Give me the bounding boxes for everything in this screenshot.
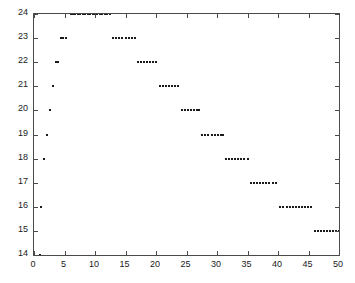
y-axis-tick-label: 16 [5, 200, 28, 211]
data-point [143, 61, 145, 63]
data-point [184, 109, 186, 111]
data-point [250, 182, 252, 184]
data-point [125, 37, 127, 39]
y-axis-tick [335, 62, 339, 63]
data-point [298, 206, 300, 208]
data-point [65, 37, 67, 39]
data-point [207, 134, 209, 136]
y-axis-tick-label: 14 [5, 248, 28, 259]
y-axis-tick [34, 183, 38, 184]
data-point [46, 134, 48, 136]
data-point [177, 85, 179, 87]
x-axis-tick-label: 10 [82, 259, 106, 270]
y-axis-tick-label: 21 [5, 79, 28, 90]
data-point [39, 254, 41, 255]
x-axis-tick-label: 35 [235, 259, 259, 270]
x-axis-tick-label: 15 [113, 259, 137, 270]
data-point [140, 61, 142, 63]
y-axis-tick [335, 86, 339, 87]
x-axis-tick [309, 14, 310, 18]
x-axis-tick [278, 251, 279, 255]
y-axis-tick [34, 231, 38, 232]
data-point [118, 37, 120, 39]
data-point [217, 134, 219, 136]
y-axis-tick-label: 22 [5, 55, 28, 66]
data-point [262, 182, 264, 184]
y-axis-tick [34, 207, 38, 208]
data-point [326, 230, 328, 232]
data-point [307, 206, 309, 208]
y-axis-tick [34, 86, 38, 87]
x-axis-tick-label: 50 [326, 259, 350, 270]
x-axis-tick-label: 25 [174, 259, 198, 270]
y-axis-tick [335, 110, 339, 111]
x-axis-tick-label: 30 [204, 259, 228, 270]
y-axis-tick [34, 135, 38, 136]
data-point [131, 37, 133, 39]
data-point [231, 158, 233, 160]
x-axis-tick [95, 251, 96, 255]
data-point [211, 134, 213, 136]
data-point [171, 85, 173, 87]
data-point [268, 182, 270, 184]
data-point [43, 158, 45, 160]
data-point [162, 85, 164, 87]
x-axis-tick [126, 14, 127, 18]
x-axis-tick [156, 14, 157, 18]
x-axis-tick [248, 251, 249, 255]
x-axis-tick-label: 20 [143, 259, 167, 270]
y-axis-tick-label: 15 [5, 224, 28, 235]
data-point [289, 206, 291, 208]
x-axis-tick [217, 251, 218, 255]
data-point [225, 158, 227, 160]
y-axis-tick [335, 159, 339, 160]
y-axis-tick-label: 17 [5, 176, 28, 187]
data-point [301, 206, 303, 208]
x-axis-tick [187, 251, 188, 255]
data-point [237, 158, 239, 160]
data-point [52, 85, 54, 87]
x-axis-tick [126, 251, 127, 255]
y-axis-tick-label: 20 [5, 103, 28, 114]
data-point [275, 182, 277, 184]
data-point [295, 206, 297, 208]
y-axis-tick [34, 159, 38, 160]
data-point [272, 182, 274, 184]
x-axis-tick-label: 5 [52, 259, 76, 270]
data-point [286, 206, 288, 208]
data-point [314, 230, 316, 232]
data-point [155, 61, 157, 63]
y-axis-tick [34, 255, 38, 256]
data-point [128, 37, 130, 39]
data-point [115, 37, 117, 39]
data-point [165, 85, 167, 87]
data-point [259, 182, 261, 184]
x-axis-tick [217, 14, 218, 18]
y-axis-tick [335, 38, 339, 39]
x-axis-tick [339, 14, 340, 18]
data-point [234, 158, 236, 160]
data-point [253, 182, 255, 184]
data-point [282, 206, 284, 208]
x-axis-tick [309, 251, 310, 255]
y-axis-tick [34, 110, 38, 111]
y-axis-tick-label: 24 [5, 7, 28, 18]
plot-frame [33, 13, 340, 256]
data-point [159, 85, 161, 87]
x-axis-tick [156, 251, 157, 255]
y-axis-tick [335, 255, 339, 256]
data-point [256, 182, 258, 184]
x-axis-tick [248, 14, 249, 18]
data-point [109, 14, 111, 15]
y-axis-tick [34, 62, 38, 63]
plot-data-area [34, 14, 339, 255]
data-point [204, 134, 206, 136]
data-point [190, 109, 192, 111]
y-axis-tick [34, 14, 38, 15]
data-point [174, 85, 176, 87]
data-point [323, 230, 325, 232]
data-point [146, 61, 148, 63]
data-point [329, 230, 331, 232]
scatter-plot-figure: 0510152025303540455014151617181920212223… [0, 0, 355, 283]
data-point [228, 158, 230, 160]
